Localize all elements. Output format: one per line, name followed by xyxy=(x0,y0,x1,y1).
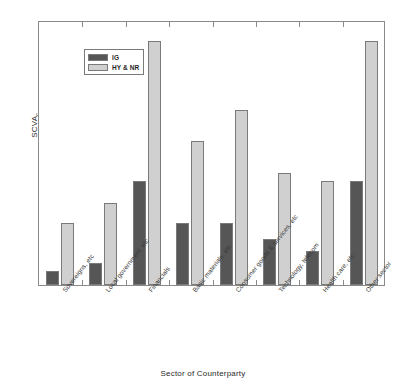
axis-tick-bottom xyxy=(169,280,170,285)
legend-label-hy-nr: HY & NR xyxy=(112,64,139,71)
axis-tick-bottom xyxy=(343,280,344,285)
axis-tick-bottom xyxy=(256,280,257,285)
legend-entry-hy-nr: HY & NR xyxy=(88,62,139,72)
bar-ig xyxy=(89,263,102,285)
legend-swatch-ig xyxy=(88,54,108,61)
axis-tick-bottom xyxy=(126,280,127,285)
bar-ig xyxy=(350,181,363,285)
bar-ig xyxy=(220,223,233,285)
bar-ig xyxy=(46,271,59,285)
legend-label-ig: IG xyxy=(112,54,119,61)
axis-tick-top xyxy=(299,22,300,27)
axis-tick-bottom xyxy=(213,280,214,285)
bar-ig xyxy=(306,251,319,285)
bar-hy-nr xyxy=(61,223,74,285)
bar-hy-nr xyxy=(278,173,291,285)
axis-tick-bottom xyxy=(82,280,83,285)
bar-group xyxy=(169,22,212,285)
axis-tick-top xyxy=(343,22,344,27)
plot-area: IG HY & NR xyxy=(38,21,385,286)
axis-tick-top xyxy=(213,22,214,27)
axis-tick-top xyxy=(82,22,83,27)
bar-hy-nr xyxy=(321,181,334,285)
bar-hy-nr xyxy=(365,41,378,285)
axis-tick-bottom xyxy=(299,280,300,285)
axis-tick-top xyxy=(126,22,127,27)
axis-tick-top xyxy=(169,22,170,27)
bar-group xyxy=(213,22,256,285)
bar-group xyxy=(256,22,299,285)
bar-hy-nr xyxy=(104,203,117,285)
legend: IG HY & NR xyxy=(84,49,144,75)
bar-hy-nr xyxy=(235,110,248,285)
bar-group xyxy=(39,22,82,285)
bar-group xyxy=(343,22,386,285)
legend-swatch-hy-nr xyxy=(88,64,108,71)
legend-entry-ig: IG xyxy=(88,52,139,62)
bar-group xyxy=(299,22,342,285)
bar-ig xyxy=(133,181,146,285)
x-axis-label: Sector of Counterparty xyxy=(0,369,406,378)
bar-ig xyxy=(176,223,189,285)
axis-tick-top xyxy=(256,22,257,27)
bar-hy-nr xyxy=(191,141,204,285)
bar-ig xyxy=(263,239,276,285)
bar-chart-figure: SCVAc IG HY & NR Sovereigns, etcLocal go… xyxy=(0,0,406,390)
bar-hy-nr xyxy=(148,41,161,285)
